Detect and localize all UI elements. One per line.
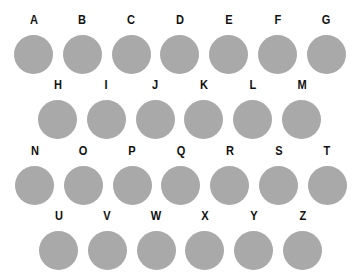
letter-label: A <box>15 13 52 27</box>
letter-item-h[interactable]: H <box>36 78 80 140</box>
letter-label: Z <box>284 209 321 223</box>
letter-label: N <box>16 144 53 158</box>
letter-item-b[interactable]: B <box>60 13 104 75</box>
letter-item-n[interactable]: N <box>13 144 57 206</box>
circle-button[interactable] <box>112 35 151 74</box>
circle-button[interactable] <box>185 231 224 270</box>
circle-button[interactable] <box>64 166 103 205</box>
letter-label: D <box>161 13 198 27</box>
letter-label: W <box>137 209 174 223</box>
letter-label: Q <box>162 144 199 158</box>
letter-label: E <box>210 13 247 27</box>
circle-button[interactable] <box>15 166 54 205</box>
letter-item-l[interactable]: L <box>231 78 275 140</box>
letter-label: O <box>65 144 102 158</box>
letter-label: L <box>234 78 271 92</box>
circle-button[interactable] <box>38 100 77 139</box>
letter-item-o[interactable]: O <box>61 144 105 206</box>
circle-button[interactable] <box>283 231 322 270</box>
letter-item-q[interactable]: Q <box>159 144 203 206</box>
letter-item-i[interactable]: I <box>84 78 128 140</box>
letter-item-j[interactable]: J <box>133 78 177 140</box>
circle-button[interactable] <box>184 100 223 139</box>
circle-button[interactable] <box>39 231 78 270</box>
letter-item-w[interactable]: W <box>134 209 178 271</box>
letter-label: B <box>64 13 101 27</box>
letter-item-a[interactable]: A <box>12 13 56 75</box>
letter-label: T <box>309 144 346 158</box>
letter-item-u[interactable]: U <box>37 209 81 271</box>
circle-button[interactable] <box>209 35 248 74</box>
letter-item-k[interactable]: K <box>182 78 226 140</box>
letter-label: H <box>39 78 76 92</box>
letter-label: C <box>112 13 149 27</box>
letter-label: F <box>259 13 296 27</box>
letter-label: Y <box>235 209 272 223</box>
letter-item-m[interactable]: M <box>280 78 324 140</box>
letter-label: X <box>186 209 223 223</box>
letter-item-y[interactable]: Y <box>232 209 276 271</box>
letter-item-p[interactable]: P <box>110 144 154 206</box>
circle-button[interactable] <box>113 166 152 205</box>
letter-label: S <box>260 144 297 158</box>
letter-label: U <box>40 209 77 223</box>
letter-item-v[interactable]: V <box>85 209 129 271</box>
letter-item-f[interactable]: F <box>256 13 300 75</box>
letter-item-e[interactable]: E <box>207 13 251 75</box>
letter-label: V <box>89 209 126 223</box>
circle-button[interactable] <box>14 35 53 74</box>
circle-button[interactable] <box>307 35 346 74</box>
circle-button[interactable] <box>308 166 347 205</box>
circle-button[interactable] <box>136 100 175 139</box>
letter-item-g[interactable]: G <box>304 13 348 75</box>
circle-button[interactable] <box>63 35 102 74</box>
letter-label: J <box>136 78 173 92</box>
circle-button[interactable] <box>233 100 272 139</box>
letter-label: P <box>113 144 150 158</box>
letter-item-t[interactable]: T <box>305 144 349 206</box>
letter-item-r[interactable]: R <box>208 144 252 206</box>
letter-label: M <box>283 78 320 92</box>
letter-item-x[interactable]: X <box>183 209 227 271</box>
circle-button[interactable] <box>259 166 298 205</box>
letter-label: K <box>185 78 222 92</box>
letter-label: I <box>88 78 125 92</box>
circle-button[interactable] <box>258 35 297 74</box>
letter-item-c[interactable]: C <box>109 13 153 75</box>
letter-label: G <box>308 13 345 27</box>
circle-button[interactable] <box>137 231 176 270</box>
circle-button[interactable] <box>88 231 127 270</box>
circle-button[interactable] <box>282 100 321 139</box>
letter-item-d[interactable]: D <box>158 13 202 75</box>
letter-label: R <box>211 144 248 158</box>
circle-button[interactable] <box>160 35 199 74</box>
circle-button[interactable] <box>234 231 273 270</box>
circle-button[interactable] <box>87 100 126 139</box>
letter-item-s[interactable]: S <box>257 144 301 206</box>
circle-button[interactable] <box>161 166 200 205</box>
circle-button[interactable] <box>210 166 249 205</box>
letter-item-z[interactable]: Z <box>281 209 325 271</box>
